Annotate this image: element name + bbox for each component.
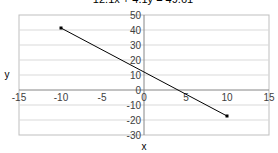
y-tick: -20 xyxy=(127,115,142,126)
y-tick: 10 xyxy=(130,70,142,81)
x-tick: -5 xyxy=(98,92,107,103)
x-tick: -15 xyxy=(12,92,27,103)
chart: 12.1x + 4.1y = 49.61 50 40 30 20 10 0 -1… xyxy=(0,0,278,153)
data-point-marker xyxy=(60,27,63,30)
x-tick: 0 xyxy=(141,92,147,103)
x-tick: 10 xyxy=(221,92,233,103)
y-tick: -10 xyxy=(127,100,142,111)
x-tick: -10 xyxy=(54,92,69,103)
y-axis-label: y xyxy=(5,69,10,80)
y-tick: 40 xyxy=(130,25,142,36)
data-point-marker xyxy=(226,115,229,118)
y-tick: 20 xyxy=(130,55,142,66)
chart-title: 12.1x + 4.1y = 49.61 xyxy=(93,0,193,5)
plot-area xyxy=(19,15,269,135)
y-tick: 30 xyxy=(130,40,142,51)
x-axis-label: x xyxy=(142,141,147,152)
y-tick: 50 xyxy=(130,10,142,21)
y-tick: -30 xyxy=(127,130,142,141)
x-tick: 15 xyxy=(263,92,275,103)
